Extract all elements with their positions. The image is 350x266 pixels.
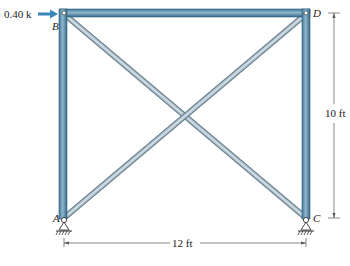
joint-B — [62, 11, 66, 15]
load-arrow — [38, 10, 58, 19]
width-label: 12 ft — [172, 237, 192, 249]
frame-diagram: 0.40 k B D A C 10 ft 12 ft — [0, 0, 350, 266]
column-AB — [59, 9, 67, 219]
joint-D — [304, 11, 308, 15]
column-CD — [302, 9, 310, 219]
pin-support-C — [298, 217, 314, 235]
beam-BD — [60, 9, 310, 17]
node-label-A: A — [52, 212, 60, 224]
node-label-C: C — [313, 212, 321, 224]
load-label: 0.40 k — [4, 8, 32, 20]
height-label: 10 ft — [325, 107, 345, 119]
node-label-D: D — [312, 7, 321, 19]
node-label-B: B — [52, 20, 59, 32]
